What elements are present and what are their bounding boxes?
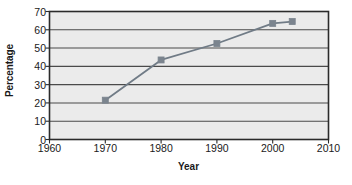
data-point-marker[interactable] xyxy=(158,57,164,63)
x-tick-label-2010: 2010 xyxy=(307,143,351,154)
data-point-marker[interactable] xyxy=(214,41,220,47)
x-tick-label-1960: 1960 xyxy=(28,143,72,154)
data-point-marker[interactable] xyxy=(102,97,108,103)
line-chart: Percentage 706050403020100 1960197019801… xyxy=(0,0,352,185)
plot-background-group xyxy=(50,12,329,140)
x-tick-label-1990: 1990 xyxy=(195,143,239,154)
x-tick-label-1980: 1980 xyxy=(139,143,183,154)
x-axis-title: Year xyxy=(49,161,328,172)
x-tick-label-1970: 1970 xyxy=(83,143,127,154)
data-point-marker[interactable] xyxy=(289,19,295,25)
x-tick-label-2000: 2000 xyxy=(251,143,295,154)
data-point-marker[interactable] xyxy=(270,20,276,26)
plot-background xyxy=(50,12,329,140)
x-axis-tick-labels: 196019701980199020002010 xyxy=(0,143,352,159)
